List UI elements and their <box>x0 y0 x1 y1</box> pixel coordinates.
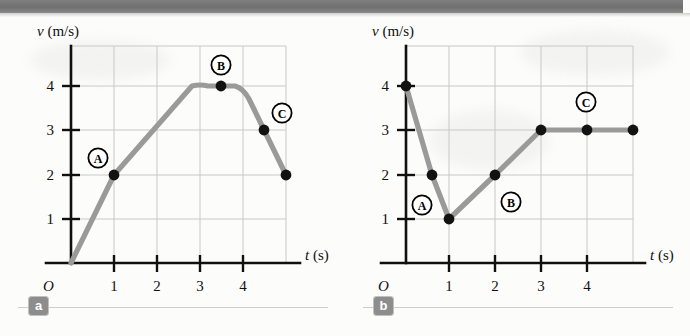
y-tick-label-b-1: 1 <box>382 211 390 227</box>
y-tick-label-b-2: 2 <box>382 167 390 183</box>
marker-b-C: C <box>576 92 595 111</box>
marker-b-C-label: C <box>582 96 591 110</box>
chart-a-svg: A B C v (m/s) t (s) O 4 <box>0 17 345 317</box>
marker-a-A: A <box>88 148 107 167</box>
figure-page: A B C v (m/s) t (s) O 4 <box>0 0 690 336</box>
y-tick-label-b-4: 4 <box>382 78 390 94</box>
marker-a-B-label: B <box>217 59 225 73</box>
data-point-a3 <box>259 125 270 136</box>
x-axis-title-a: t (s) <box>305 247 329 264</box>
top-banner <box>0 0 683 13</box>
y-axis-title-b: v (m/s) <box>372 23 414 40</box>
data-point-b6 <box>582 125 593 136</box>
y-tick-label-a-4: 4 <box>47 78 55 94</box>
x-tick-label-b-4: 4 <box>583 278 591 294</box>
origin-label-a: O <box>43 278 54 294</box>
panel-badge-a: a <box>28 296 49 316</box>
marker-a-B: B <box>211 55 230 74</box>
data-point-a2 <box>216 81 227 92</box>
x-tick-label-a-1: 1 <box>110 278 118 294</box>
data-point-b7 <box>628 125 639 136</box>
panel-badge-b: b <box>373 296 394 316</box>
x-tick-label-b-3: 3 <box>537 278 545 294</box>
data-point-a1 <box>109 170 120 181</box>
chart-panel-a: A B C v (m/s) t (s) O 4 <box>0 17 345 336</box>
caption-rule-a <box>18 307 328 308</box>
data-point-b4 <box>490 170 501 181</box>
data-point-b1 <box>401 81 412 92</box>
marker-a-C-label: C <box>278 107 287 121</box>
x-axis-title-b-unit: (s) <box>654 247 674 264</box>
y-axis-title-a-unit: (m/s) <box>44 23 79 40</box>
marker-b-B: B <box>501 192 520 211</box>
data-point-b3 <box>444 214 455 225</box>
marker-b-B-label: B <box>507 196 515 210</box>
marker-a-A-label: A <box>94 152 103 166</box>
chart-panel-b: A B C v (m/s) t (s) O 4 <box>345 17 690 336</box>
caption-row-b: b <box>345 296 690 318</box>
y-tick-label-b-3: 3 <box>382 122 390 138</box>
x-tick-label-a-3: 3 <box>196 278 204 294</box>
origin-label-b: O <box>378 278 389 294</box>
marker-b-A-label: A <box>418 199 427 213</box>
caption-rule-b <box>363 307 673 308</box>
y-tick-label-a-1: 1 <box>47 211 55 227</box>
x-tick-label-b-2: 2 <box>491 278 499 294</box>
data-point-a4 <box>281 170 292 181</box>
y-axis-title-a: v (m/s) <box>37 23 79 40</box>
marker-a-C: C <box>272 103 291 122</box>
x-tick-label-a-2: 2 <box>153 278 161 294</box>
marker-b-A: A <box>412 195 431 214</box>
caption-row-a: a <box>0 296 345 318</box>
velocity-curve-a <box>71 85 286 263</box>
y-axis-title-b-unit: (m/s) <box>379 23 414 40</box>
x-tick-label-b-1: 1 <box>445 278 453 294</box>
data-point-b5 <box>536 125 547 136</box>
y-tick-label-a-2: 2 <box>47 167 55 183</box>
x-axis-title-b: t (s) <box>650 247 674 264</box>
x-tick-label-a-4: 4 <box>239 278 247 294</box>
data-point-b2 <box>427 170 438 181</box>
y-tick-label-a-3: 3 <box>47 122 55 138</box>
chart-b-svg: A B C v (m/s) t (s) O 4 <box>345 17 690 317</box>
x-axis-title-a-unit: (s) <box>309 247 329 264</box>
